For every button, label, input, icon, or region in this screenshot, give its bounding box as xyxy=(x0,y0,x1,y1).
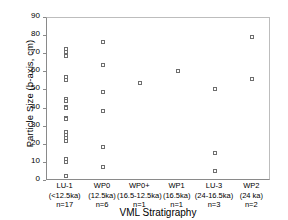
x-axis-title: VML Stratigraphy xyxy=(46,207,270,218)
y-axis-tick-label: 30 xyxy=(31,120,40,129)
y-axis-tick-label: 50 xyxy=(31,83,40,92)
data-point xyxy=(213,87,217,91)
category-name: WP2 xyxy=(240,181,263,191)
y-axis-tick-label: 90 xyxy=(31,11,40,20)
data-point xyxy=(64,174,68,178)
data-point xyxy=(101,90,105,94)
category-name: WP1 xyxy=(163,181,191,191)
y-axis-tick-label: 80 xyxy=(31,29,40,38)
particle-size-scatter-chart: Particle Size (b-axis, cm) 0102030405060… xyxy=(0,0,288,220)
data-point xyxy=(101,165,105,169)
data-point xyxy=(64,78,68,82)
y-axis-tick-label: 10 xyxy=(31,156,40,165)
x-axis-category-wp1: WP1(16.5ka)n=1 xyxy=(163,181,191,210)
category-age: (12.5ka) xyxy=(88,191,116,201)
data-points-layer xyxy=(47,18,269,179)
y-axis-tick-label: 70 xyxy=(31,47,40,56)
data-point xyxy=(101,109,105,113)
data-point xyxy=(213,169,217,173)
y-axis-tick-label: 0 xyxy=(36,174,40,183)
data-point xyxy=(64,117,68,121)
category-name: WP0 xyxy=(88,181,116,191)
category-age: (24 ka) xyxy=(240,191,263,201)
category-age: (16.5-12.5ka) xyxy=(117,191,162,201)
x-axis-category-wp0-: WP0+(16.5-12.5ka)n=1 xyxy=(117,181,162,210)
category-name: LU-3 xyxy=(195,181,233,191)
data-point xyxy=(64,54,68,58)
category-name: LU-1 xyxy=(49,181,81,191)
data-point xyxy=(213,151,217,155)
data-point xyxy=(250,77,254,81)
y-axis-tick-label: 20 xyxy=(31,138,40,147)
plot-area xyxy=(46,17,270,180)
data-point xyxy=(64,106,68,110)
y-axis-tick-label: 60 xyxy=(31,65,40,74)
data-point xyxy=(101,63,105,67)
data-point xyxy=(138,81,142,85)
data-point xyxy=(64,160,68,164)
data-point xyxy=(101,145,105,149)
x-axis-category-lu-1: LU-1(<12.5ka)n=17 xyxy=(49,181,81,210)
y-axis-tick-label: 40 xyxy=(31,102,40,111)
x-axis-category-lu-3: LU-3(24-16.5ka)n=3 xyxy=(195,181,233,210)
category-age: (24-16.5ka) xyxy=(195,191,233,201)
data-point xyxy=(64,139,68,143)
x-axis-category-wp0: WP0(12.5ka)n=6 xyxy=(88,181,116,210)
data-point xyxy=(250,35,254,39)
category-age: (<12.5ka) xyxy=(49,191,81,201)
data-point xyxy=(176,69,180,73)
data-point xyxy=(64,99,68,103)
x-axis-category-wp2: WP2(24 ka)n=2 xyxy=(240,181,263,210)
data-point xyxy=(101,40,105,44)
category-age: (16.5ka) xyxy=(163,191,191,201)
category-name: WP0+ xyxy=(117,181,162,191)
